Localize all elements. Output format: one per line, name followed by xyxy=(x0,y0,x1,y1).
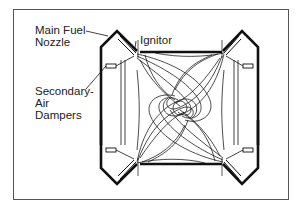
burner-top-right xyxy=(223,31,258,145)
label-line: Main Fuel xyxy=(35,24,86,36)
damper-icon xyxy=(243,64,253,68)
damper-icon xyxy=(106,148,116,152)
burner-top-left xyxy=(101,31,137,145)
damper-icon xyxy=(243,148,253,152)
label-line: Air xyxy=(35,97,94,109)
label-line: Secondary- xyxy=(35,85,94,97)
ignitor-icons xyxy=(138,40,222,176)
burner-bottom-left xyxy=(101,120,137,184)
label-line: Nozzle xyxy=(35,36,86,48)
damper-icon xyxy=(106,64,116,68)
label-ignitor: Ignitor xyxy=(140,34,172,46)
swirl-flow-lines xyxy=(137,53,224,163)
burner-bottom-right xyxy=(223,120,258,184)
label-line: Dampers xyxy=(35,109,94,121)
label-secondary-air-dampers: Secondary- Air Dampers xyxy=(35,85,94,121)
furnace-walls xyxy=(140,52,222,164)
leader-lines xyxy=(86,31,136,89)
label-main-fuel-nozzle: Main Fuel Nozzle xyxy=(35,24,86,48)
